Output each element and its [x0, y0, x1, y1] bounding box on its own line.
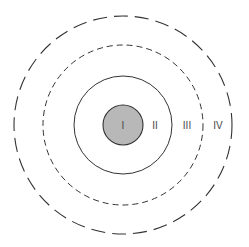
label-zone-ii: II [152, 120, 158, 131]
label-zone-iv: IV [213, 120, 223, 131]
label-zone-iii: III [183, 120, 191, 131]
concentric-circles-diagram: I II III IV [0, 0, 249, 247]
label-zone-i: I [122, 120, 125, 131]
diagram-svg: I II III IV [0, 0, 249, 247]
